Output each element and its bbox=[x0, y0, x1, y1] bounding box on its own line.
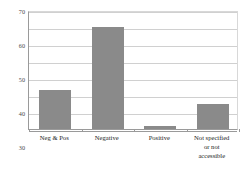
x-axis-category-label-line: Neg & Pos bbox=[28, 133, 81, 142]
bar[interactable] bbox=[39, 90, 71, 129]
x-axis-tick bbox=[82, 129, 83, 132]
bar[interactable] bbox=[92, 27, 124, 129]
y-axis-tick-label: 30 bbox=[19, 145, 25, 151]
x-axis-category-label-line: accessible bbox=[186, 151, 239, 160]
x-axis-category-label: Positive bbox=[133, 133, 186, 142]
x-axis-category-label-line: Positive bbox=[133, 133, 186, 142]
bar-slot bbox=[29, 12, 82, 129]
bar[interactable] bbox=[144, 126, 176, 129]
gridline: 0 bbox=[29, 131, 237, 132]
x-axis-category-label: Not specifiedor notaccessible bbox=[186, 133, 239, 160]
x-axis-category-label-line: or not bbox=[186, 142, 239, 151]
y-axis-tick-label: 60 bbox=[19, 43, 25, 49]
x-axis-category-label: Negative bbox=[81, 133, 134, 142]
bar[interactable] bbox=[197, 104, 229, 129]
bar-slot bbox=[82, 12, 135, 129]
bars-group bbox=[29, 12, 237, 129]
x-axis-category-label-line: Negative bbox=[81, 133, 134, 142]
bar-chart: 010203040506070 Neg & PosNegativePositiv… bbox=[0, 0, 246, 173]
x-axis-tick bbox=[29, 129, 30, 132]
bar-slot bbox=[187, 12, 240, 129]
x-axis-labels-group: Neg & PosNegativePositiveNot specifiedor… bbox=[28, 133, 238, 173]
plot-area: 010203040506070 bbox=[28, 11, 238, 130]
x-axis-tick bbox=[134, 129, 135, 132]
x-axis-tick bbox=[239, 129, 240, 132]
x-axis-category-label: Neg & Pos bbox=[28, 133, 81, 142]
y-axis-tick-label: 50 bbox=[19, 77, 25, 83]
x-axis-tick bbox=[187, 129, 188, 132]
x-axis-category-label-line: Not specified bbox=[186, 133, 239, 142]
y-axis-tick-label: 40 bbox=[19, 111, 25, 117]
bar-slot bbox=[134, 12, 187, 129]
y-axis-tick-label: 70 bbox=[19, 9, 25, 15]
